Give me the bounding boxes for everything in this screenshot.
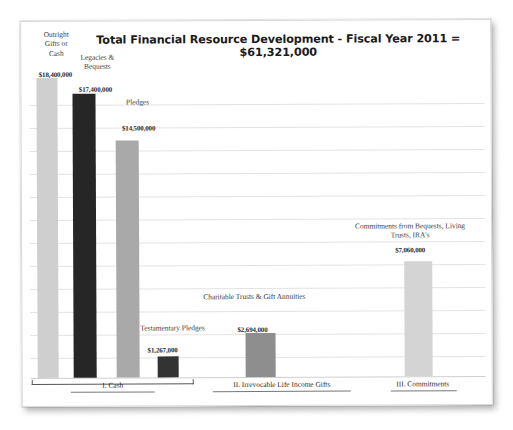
series-value-legacies-bequests: $17,400,000 — [57, 86, 133, 93]
bar-outright-gifts-or-cash[interactable] — [36, 78, 58, 378]
gridline — [30, 241, 485, 244]
gridline — [30, 172, 485, 175]
gridline — [30, 103, 485, 106]
series-label-line: Pledges — [107, 97, 167, 107]
series-value-commitments-bequests: $7,060,000 — [374, 246, 446, 253]
series-label-line: Outright — [29, 30, 83, 40]
series-label-line: Commitments from Bequests, Living — [334, 221, 486, 231]
category-label-irrevocable-life-income-gifts: II. Irrevocable Life Income Gifts — [202, 380, 362, 390]
bar-pledges[interactable] — [116, 141, 140, 378]
category-underline-irrevocable — [213, 391, 351, 393]
series-label-line: Charitable Trusts & Gift Annuities — [181, 292, 327, 302]
gridline — [30, 126, 485, 129]
gridline — [30, 195, 485, 198]
series-label-line: Bequests — [68, 62, 126, 72]
series-label-pledges: Pledges — [107, 97, 167, 107]
series-label-line: Trusts, IRA's — [334, 230, 486, 240]
series-value-charitable-trusts: $2,694,000 — [216, 326, 288, 333]
series-label-line: Testamentary Pledges — [130, 323, 214, 333]
category-label-cash: I. Cash — [32, 380, 194, 390]
category-underline-commitments — [391, 390, 457, 391]
chart-title: Total Financial Resource Development - F… — [73, 32, 483, 60]
series-value-outright-gifts: $18,400,000 — [22, 71, 88, 78]
scanned-page: Total Financial Resource Development - F… — [20, 19, 493, 407]
series-label-legacies-bequests: Legacies & Bequests — [68, 53, 126, 72]
series-value-testamentary-pledges: $1,267,000 — [127, 346, 199, 353]
series-label-charitable-trusts: Charitable Trusts & Gift Annuities — [181, 292, 327, 302]
bar-legacies-and-bequests[interactable] — [72, 94, 96, 378]
category-label-commitments: III. Commitments — [363, 379, 483, 389]
bar-charitable-trusts-and-gift-annuities[interactable] — [246, 333, 276, 377]
series-value-pledges: $14,500,000 — [101, 124, 177, 131]
bar-testamentary-pledges[interactable] — [158, 356, 179, 377]
gridline — [30, 149, 485, 152]
category-underline-cash — [71, 391, 155, 392]
series-label-line: Legacies & — [68, 53, 126, 63]
bar-commitments-from-bequests[interactable] — [404, 261, 433, 376]
page-surface: Total Financial Resource Development - F… — [20, 19, 493, 407]
series-label-commitments-bequests: Commitments from Bequests, Living Trusts… — [334, 221, 486, 241]
series-label-testamentary-pledges: Testamentary Pledges — [130, 323, 214, 333]
series-label-line: Gifts or — [29, 39, 83, 49]
